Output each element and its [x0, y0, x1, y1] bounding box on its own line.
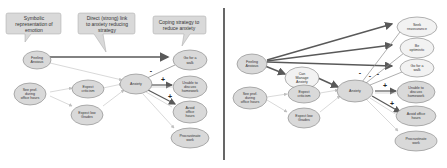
node-go-for-walk: Go for a walk	[173, 50, 207, 70]
node-see-prof: See prof. during office hours	[233, 87, 267, 109]
node-feeling-anxious: Feeling Anxious	[23, 51, 51, 69]
svg-text:criticism: criticism	[82, 89, 95, 93]
node-be-optimistic: Be optimistic	[400, 38, 434, 58]
svg-text:work: work	[186, 138, 194, 142]
node-go-for-walk: Go for a walk	[400, 59, 434, 77]
svg-text:-: -	[359, 69, 362, 76]
callout-direct-link: Direct (strong) link to anxiety reducing…	[78, 13, 135, 52]
svg-text:-: -	[369, 72, 372, 79]
svg-text:-: -	[150, 67, 153, 74]
callout-symbolic: Symbolic representation of emotion	[6, 13, 61, 42]
svg-text:+: +	[383, 82, 387, 89]
svg-text:optimistic: optimistic	[410, 48, 425, 52]
node-seek-reassurance: Seek reassurance	[397, 17, 437, 37]
svg-text:Anxious: Anxious	[246, 64, 259, 68]
node-expect-low-grades: Expect low Grades	[288, 108, 320, 128]
svg-text:criticism: criticism	[298, 94, 311, 98]
svg-text:Grades: Grades	[81, 115, 93, 119]
svg-text:homework: homework	[182, 89, 199, 93]
svg-text:work: work	[412, 141, 420, 145]
node-procrastinate: Procrastinate work	[171, 128, 209, 148]
svg-text:walk: walk	[413, 68, 420, 72]
svg-text:Anxious: Anxious	[31, 60, 44, 64]
node-expect-criticism: Expect criticism	[72, 80, 104, 98]
svg-text:office hours: office hours	[21, 96, 40, 100]
causal-map-diagram: Symbolic representation of emotion Direc…	[0, 0, 447, 168]
callout-coping-strategy: Coping strategy to reduce anxiety	[153, 16, 206, 46]
svg-text:Anxiety: Anxiety	[130, 82, 142, 86]
right-panel: - - - + + Feeling Anxious Seek reassuran…	[233, 17, 437, 151]
svg-text:reassurance: reassurance	[407, 27, 427, 31]
node-see-prof: See prof. during office hours	[14, 83, 46, 105]
svg-text:walk: walk	[186, 61, 193, 65]
svg-text:emotion: emotion	[25, 27, 43, 33]
node-expect-criticism: Expect criticism	[288, 85, 320, 103]
svg-text:hours: hours	[186, 114, 195, 118]
svg-text:+: +	[161, 76, 165, 83]
node-unable-discuss: Unable to discuss homework	[173, 76, 207, 98]
svg-text:Anxiety: Anxiety	[296, 80, 308, 84]
svg-text:-: -	[377, 70, 380, 77]
left-panel: Symbolic representation of emotion Direc…	[6, 13, 209, 148]
node-anxiety: Anxiety	[120, 74, 152, 94]
svg-text:reduce anxiety: reduce anxiety	[163, 25, 196, 31]
svg-text:Go for a: Go for a	[184, 56, 197, 60]
svg-text:hours: hours	[412, 116, 421, 120]
svg-text:+: +	[390, 100, 394, 107]
node-anxiety: Anxiety	[337, 80, 373, 102]
node-procrastinate: Procrastinate work	[395, 131, 437, 151]
node-unable-discuss: Unable to discuss homework	[397, 81, 435, 103]
svg-text:Grades: Grades	[298, 118, 310, 122]
svg-text:Anxiety: Anxiety	[349, 89, 361, 93]
svg-text:+: +	[168, 93, 172, 100]
node-avoid-office-hours: Avoid office hours	[396, 106, 436, 126]
svg-text:homework: homework	[408, 94, 425, 98]
node-feeling-anxious: Feeling Anxious	[237, 54, 267, 74]
node-avoid-office-hours: Avoid office hours	[173, 101, 207, 123]
svg-text:office hours: office hours	[241, 100, 260, 104]
svg-text:strategy: strategy	[98, 27, 116, 33]
node-expect-low-grades: Expect low Grades	[71, 105, 103, 125]
